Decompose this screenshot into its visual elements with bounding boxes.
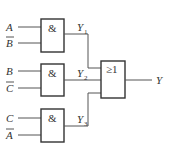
output-sub-y2: 2 [84, 74, 88, 82]
or-gate: ≥1 Y [101, 61, 164, 98]
or-gate-symbol: ≥1 [106, 63, 118, 75]
input-label-c-bar: C [6, 82, 14, 94]
input-label-a-bar: A [5, 129, 13, 141]
and-gate-3: & C A Y 3 [5, 93, 101, 142]
output-label-y: Y [156, 74, 164, 86]
wire-y1 [64, 34, 101, 68]
and-gate-3-symbol: & [48, 112, 57, 124]
input-label-b-bar: B [6, 37, 13, 49]
logic-circuit-diagram: & A B Y 1 & B C Y 2 & C A Y 3 ≥1 Y [0, 0, 175, 158]
input-label-a: A [5, 21, 13, 33]
input-label-c: C [6, 112, 14, 124]
output-sub-y3: 3 [84, 120, 88, 128]
and-gate-2-symbol: & [48, 67, 57, 79]
input-label-b: B [6, 65, 13, 77]
output-sub-y1: 1 [84, 28, 88, 36]
and-gate-2: & B C Y 2 [6, 64, 101, 96]
and-gate-1-symbol: & [48, 22, 57, 34]
and-gate-1: & A B Y 1 [5, 19, 101, 68]
